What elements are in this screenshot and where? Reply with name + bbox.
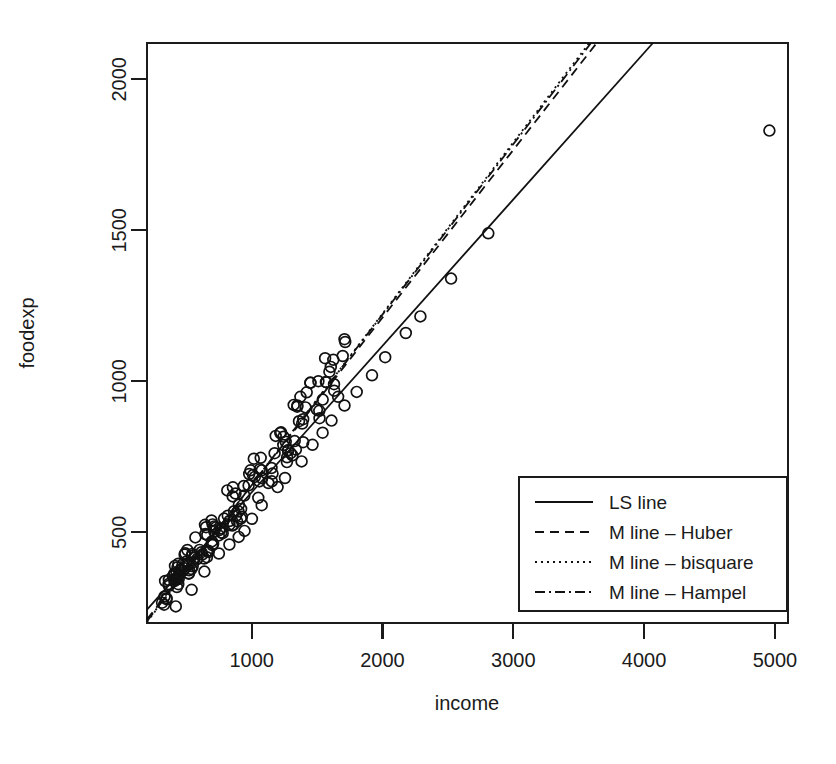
y-axis: 500100015002000	[108, 57, 147, 549]
data-point	[280, 473, 291, 484]
data-point	[337, 351, 348, 362]
y-tick-label: 500	[108, 516, 130, 549]
scatter-plot-figure: 10002000300040005000 500100015002000 inc…	[0, 0, 836, 764]
legend-label: M line – Hampel	[609, 582, 746, 603]
x-tick-label: 4000	[622, 649, 667, 671]
x-tick-label: 5000	[753, 649, 798, 671]
data-point	[400, 328, 411, 339]
legend: LS lineM line – HuberM line – bisquareM …	[519, 477, 787, 611]
data-point	[170, 601, 181, 612]
x-tick-label: 1000	[229, 649, 274, 671]
data-point	[351, 387, 362, 398]
y-axis-title: foodexp	[16, 297, 38, 368]
data-point	[764, 125, 775, 136]
data-point	[247, 513, 258, 524]
legend-label: LS line	[609, 492, 667, 513]
data-point	[199, 566, 210, 577]
data-point	[483, 228, 494, 239]
x-tick-label: 3000	[491, 649, 536, 671]
y-tick-label: 1000	[108, 359, 130, 404]
data-point	[255, 452, 266, 463]
data-point	[380, 352, 391, 363]
y-tick-label: 1500	[108, 208, 130, 253]
data-point	[317, 427, 328, 438]
data-point	[446, 273, 457, 284]
data-point	[317, 394, 328, 405]
data-point	[186, 584, 197, 595]
y-tick-label: 2000	[108, 57, 130, 102]
legend-label: M line – bisquare	[609, 552, 754, 573]
data-point	[305, 377, 316, 388]
x-tick-label: 2000	[360, 649, 405, 671]
data-point	[224, 539, 235, 550]
plot-canvas: 10002000300040005000 500100015002000 inc…	[0, 0, 836, 764]
data-point	[326, 415, 337, 426]
legend-label: M line – Huber	[609, 522, 733, 543]
data-point	[415, 311, 426, 322]
x-axis: 10002000300040005000	[229, 623, 797, 671]
x-axis-title: income	[435, 692, 499, 714]
data-point	[367, 370, 378, 381]
